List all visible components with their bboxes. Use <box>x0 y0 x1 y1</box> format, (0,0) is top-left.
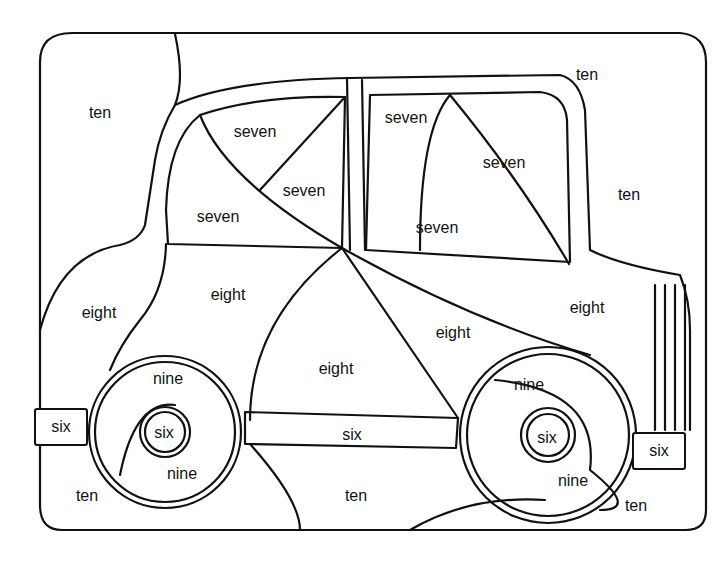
region-bg-right[interactable]: ten <box>618 186 640 204</box>
region-window-left-top[interactable]: seven <box>234 123 277 141</box>
region-body-center[interactable]: eight <box>319 360 354 378</box>
region-body-mid-right[interactable]: eight <box>436 324 471 342</box>
region-bg-top-left[interactable]: ten <box>89 104 111 122</box>
region-wheel-left-bottom[interactable]: nine <box>167 465 197 483</box>
region-window-right-mid[interactable]: seven <box>483 154 526 172</box>
region-ground-left[interactable]: ten <box>76 487 98 505</box>
region-window-right-bottom[interactable]: seven <box>416 219 459 237</box>
region-window-left-bottom[interactable]: seven <box>197 208 240 226</box>
region-wheel-left-top[interactable]: nine <box>153 370 183 388</box>
bumper-left[interactable]: six <box>34 408 88 446</box>
region-window-left-mid[interactable]: seven <box>283 182 326 200</box>
bumper-right-label: six <box>649 442 669 460</box>
region-hub-left[interactable]: six <box>154 424 174 442</box>
region-bg-top-right[interactable]: ten <box>576 66 598 84</box>
region-body-left[interactable]: eight <box>211 286 246 304</box>
region-hub-right[interactable]: six <box>537 429 557 447</box>
bumper-left-label: six <box>51 418 71 436</box>
region-ground-center[interactable]: ten <box>345 487 367 505</box>
region-body-left-outer[interactable]: eight <box>82 304 117 322</box>
region-wheel-right-bottom[interactable]: nine <box>558 472 588 490</box>
region-wheel-right-top[interactable]: nine <box>514 376 544 394</box>
region-ground-right[interactable]: ten <box>625 497 647 515</box>
car-outline-drawing <box>0 0 723 561</box>
region-window-right-top[interactable]: seven <box>385 109 428 127</box>
region-body-right[interactable]: eight <box>570 299 605 317</box>
region-rocker[interactable]: six <box>342 426 362 444</box>
bumper-right[interactable]: six <box>632 432 686 470</box>
